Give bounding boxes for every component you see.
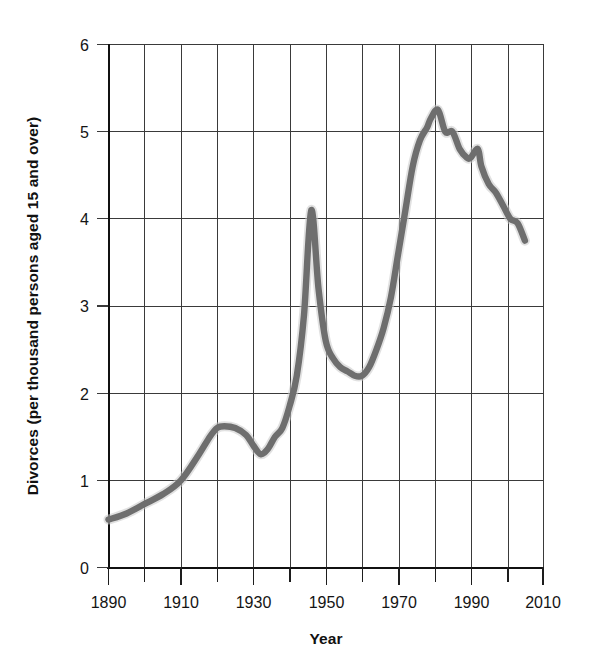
y-tick-label-4: 4 [80, 211, 89, 228]
x-tick-label-1970: 1970 [381, 594, 417, 611]
divorce-rate-line-halo [109, 110, 525, 520]
y-tick-label-1: 1 [80, 473, 89, 490]
x-tick-label-1950: 1950 [309, 594, 345, 611]
y-tick-label-5: 5 [80, 124, 89, 141]
y-axis-title: Divorces (per thousand persons aged 15 a… [24, 117, 41, 496]
y-tick-labels: 6 5 4 3 2 1 0 [80, 37, 89, 577]
chart-figure: Divorces (per thousand persons aged 15 a… [0, 0, 590, 664]
y-tick-label-0: 0 [80, 560, 89, 577]
y-tick-label-2: 2 [80, 386, 89, 403]
x-tick-label-2010: 2010 [525, 594, 561, 611]
x-tick-label-1930: 1930 [236, 594, 272, 611]
x-tick-marks [109, 567, 544, 585]
horizontal-gridlines [108, 45, 543, 481]
y-tick-label-3: 3 [80, 298, 89, 315]
x-tick-labels: 1890 1910 1930 1950 1970 1990 2010 [91, 594, 561, 611]
x-tick-label-1910: 1910 [163, 594, 199, 611]
data-series-group [109, 110, 525, 520]
y-tick-marks [97, 45, 108, 568]
line-chart: Divorces (per thousand persons aged 15 a… [0, 0, 590, 664]
x-axis-title: Year [309, 630, 342, 647]
x-tick-label-1890: 1890 [91, 594, 127, 611]
x-tick-label-1990: 1990 [454, 594, 490, 611]
y-tick-label-6: 6 [80, 37, 89, 54]
